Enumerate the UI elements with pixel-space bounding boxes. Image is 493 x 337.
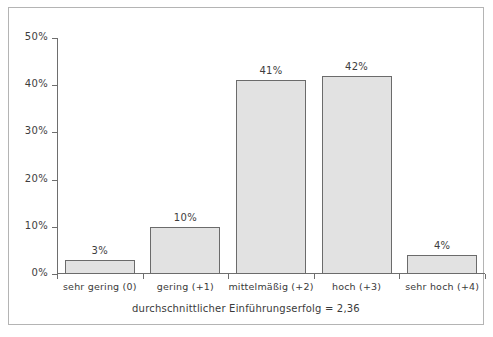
x-category-label: hoch (+3)	[314, 281, 400, 292]
y-tick-label: 10%	[25, 220, 48, 231]
y-tick-label: 0%	[32, 267, 48, 278]
y-tick-label: 20%	[25, 173, 48, 184]
x-tick	[485, 274, 486, 279]
figure-frame: 0%10%20%30%40%50% 3%sehr gering (0)10%ge…	[8, 7, 484, 325]
bar[interactable]	[407, 255, 477, 274]
x-tick	[143, 274, 144, 279]
chart-figure: 0%10%20%30%40%50% 3%sehr gering (0)10%ge…	[0, 0, 493, 337]
x-category-label: gering (+1)	[143, 281, 229, 292]
x-category-label: sehr gering (0)	[57, 281, 143, 292]
x-tick	[228, 274, 229, 279]
y-tick-label: 40%	[25, 78, 48, 89]
x-category-label: mittelmäßig (+2)	[228, 281, 314, 292]
bar-value-label: 42%	[314, 61, 400, 72]
bar-value-label: 4%	[399, 240, 485, 251]
bar[interactable]	[150, 227, 220, 274]
y-tick-label: 50%	[25, 31, 48, 42]
bar-group: 10%gering (+1)	[143, 38, 229, 274]
bar-series: 3%sehr gering (0)10%gering (+1)41%mittel…	[57, 38, 485, 274]
plot-area: 0%10%20%30%40%50% 3%sehr gering (0)10%ge…	[57, 38, 485, 274]
bar-value-label: 41%	[228, 65, 314, 76]
x-tick	[399, 274, 400, 279]
bar-group: 41%mittelmäßig (+2)	[228, 38, 314, 274]
bar[interactable]	[236, 80, 306, 274]
bar-value-label: 10%	[143, 212, 229, 223]
x-category-label: sehr hoch (+4)	[399, 281, 485, 292]
bar-value-label: 3%	[57, 245, 143, 256]
y-tick-label: 30%	[25, 125, 48, 136]
bar-group: 42%hoch (+3)	[314, 38, 400, 274]
bar-group: 4%sehr hoch (+4)	[399, 38, 485, 274]
bar[interactable]	[65, 260, 135, 274]
chart-caption: durchschnittlicher Einführungserfolg = 2…	[9, 303, 483, 314]
x-tick	[57, 274, 58, 279]
x-tick	[314, 274, 315, 279]
bar[interactable]	[322, 76, 392, 274]
bar-group: 3%sehr gering (0)	[57, 38, 143, 274]
